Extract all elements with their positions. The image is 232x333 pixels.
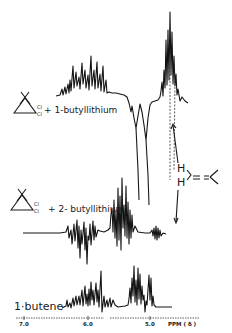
cl-label: Cl (34, 208, 39, 214)
spectrum-trace-2-butyllithium (23, 178, 166, 264)
series-label-2-butyllithium: + 2- butyllithium (48, 204, 124, 214)
x-tick-6.0: 6.0 (83, 321, 93, 327)
series-label-1-butyllithium: + 1-butyllithium (44, 105, 117, 115)
vinylidene-annotation: H H (171, 124, 218, 223)
cl-label: Cl (37, 111, 42, 117)
dichlorocyclopropane-structure-2: Cl Cl (11, 189, 39, 214)
x-tick-7.0: 7.0 (19, 321, 29, 327)
dichlorocyclopropane-structure-1: Cl Cl (14, 92, 42, 117)
spectrum-trace-1-butene (62, 266, 172, 312)
h-label: H (177, 176, 185, 189)
dip-line (136, 128, 139, 200)
cl-label: Cl (34, 201, 39, 207)
x-axis-unit-label: PPM ( δ ) (168, 321, 197, 327)
arrow-down-icon (176, 190, 178, 222)
cl-label: Cl (37, 104, 42, 110)
bond-bracket (187, 170, 191, 180)
x-tick-5.0: 5.0 (145, 321, 155, 327)
x-axis: 7.0 6.0 5.0 PPM ( δ ) (16, 316, 200, 327)
series-label-1-butene: 1·butene (14, 300, 64, 313)
nmr-spectra-figure: Cl Cl + 1-butyllithium Cl Cl + 2- butyll… (0, 0, 232, 333)
double-bond-icon (193, 176, 209, 179)
spectrum-trace-1-butyllithium (56, 12, 188, 140)
branch-icon (210, 170, 218, 184)
h-label: H (177, 162, 185, 175)
dip-line (146, 140, 149, 205)
